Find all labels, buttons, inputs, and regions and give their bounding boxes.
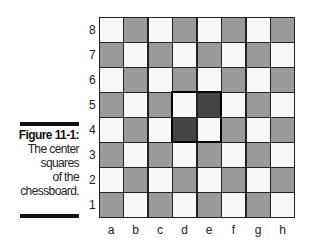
square-h1 [271,193,294,217]
square-a3 [100,143,123,167]
square-c1 [149,193,172,217]
square-b1 [124,193,147,217]
square-h4 [271,118,294,142]
square-e6 [198,68,221,92]
square-h5 [271,93,294,117]
square-f3 [222,143,245,167]
square-g3 [247,143,270,167]
square-c8 [149,18,172,42]
square-f1 [222,193,245,217]
caption-line: squares [0,156,79,170]
square-a7 [100,43,123,67]
square-b2 [124,168,147,192]
square-b8 [124,18,147,42]
square-a1 [100,193,123,217]
file-label-b: b [124,223,148,237]
square-g2 [247,168,270,192]
square-e7 [198,43,221,67]
rank-label-4: 4 [87,123,97,137]
square-g6 [247,68,270,92]
square-h6 [271,68,294,92]
square-b4 [124,118,147,142]
square-e5 [198,93,221,117]
square-b5 [124,93,147,117]
rank-label-7: 7 [87,48,97,62]
rank-label-1: 1 [87,198,97,212]
rank-label-8: 8 [87,23,97,37]
file-label-g: g [246,223,270,237]
file-label-e: e [197,223,221,237]
square-f4 [222,118,245,142]
caption-top-rule [20,122,79,126]
square-b7 [124,43,147,67]
file-label-h: h [271,223,295,237]
square-f6 [222,68,245,92]
square-b6 [124,68,147,92]
square-d7 [173,43,196,67]
square-g5 [247,93,270,117]
square-d1 [173,193,196,217]
square-a5 [100,93,123,117]
file-label-c: c [148,223,172,237]
caption-bottom-rule [20,214,79,218]
square-g7 [247,43,270,67]
square-e3 [198,143,221,167]
square-g4 [247,118,270,142]
square-d4 [173,118,196,142]
caption-line: chessboard. [0,184,79,198]
square-f2 [222,168,245,192]
square-c4 [149,118,172,142]
rank-label-3: 3 [87,148,97,162]
square-a2 [100,168,123,192]
square-f7 [222,43,245,67]
square-d2 [173,168,196,192]
square-f8 [222,18,245,42]
square-g8 [247,18,270,42]
square-c3 [149,143,172,167]
square-c2 [149,168,172,192]
figure-label: Figure 11-1: [0,128,79,142]
square-e4 [198,118,221,142]
square-e2 [198,168,221,192]
figure-caption: Figure 11-1: The center squares of the c… [0,128,79,198]
caption-line: The center [0,142,79,156]
square-h8 [271,18,294,42]
file-label-a: a [99,223,123,237]
square-a6 [100,68,123,92]
square-f5 [222,93,245,117]
square-h3 [271,143,294,167]
rank-label-6: 6 [87,73,97,87]
square-b3 [124,143,147,167]
square-a4 [100,118,123,142]
rank-label-2: 2 [87,173,97,187]
square-c6 [149,68,172,92]
square-c7 [149,43,172,67]
square-d3 [173,143,196,167]
square-a8 [100,18,123,42]
square-c5 [149,93,172,117]
square-g1 [247,193,270,217]
square-d6 [173,68,196,92]
square-d8 [173,18,196,42]
square-e1 [198,193,221,217]
square-e8 [198,18,221,42]
square-d5 [173,93,196,117]
square-h7 [271,43,294,67]
caption-line: of the [0,170,79,184]
rank-label-5: 5 [87,98,97,112]
file-label-d: d [173,223,197,237]
file-label-f: f [222,223,246,237]
square-h2 [271,168,294,192]
chessboard [99,17,295,218]
